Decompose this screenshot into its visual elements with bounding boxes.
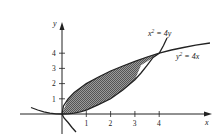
y-axis-arrow-icon (60, 22, 65, 30)
x-tick-label-2: 2 (109, 119, 113, 128)
x-tick-label-4: 4 (157, 119, 161, 128)
x-tick-label-1: 1 (85, 119, 89, 128)
y-tick-label-2: 2 (52, 79, 56, 88)
curve-label-x2-eq-4y: x2 = 4y (147, 28, 172, 38)
y-axis-label: y (52, 19, 57, 28)
region-plot: x y 1 2 3 4 1 2 3 4 x2 = 4y y2 = 4x (0, 0, 222, 138)
y-tick-label-1: 1 (52, 95, 56, 104)
x-axis-arrow-icon (204, 112, 212, 117)
y-tick-label-3: 3 (52, 64, 56, 73)
y-tick-label-4: 4 (52, 49, 56, 58)
curve-label-y2-eq-4x: y2 = 4x (175, 51, 200, 61)
shaded-region (62, 53, 159, 114)
x-tick-label-3: 3 (133, 119, 137, 128)
x-axis-label: x (204, 118, 209, 127)
